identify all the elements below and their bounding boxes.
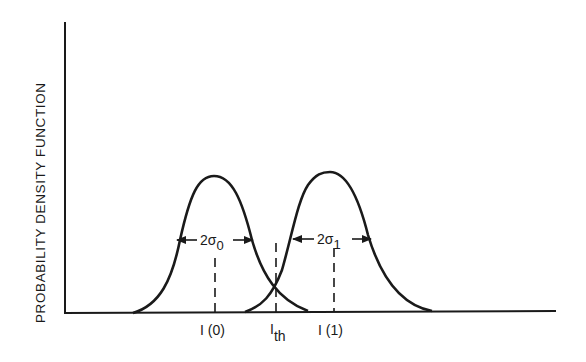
- width-arrow-1: 2σ1: [292, 231, 372, 252]
- pdf-diagram: PROBABILITY DENSITY FUNCTION 2σ0 2σ1 I (…: [0, 0, 586, 362]
- sigma-1-label: 2σ1: [317, 231, 341, 252]
- mean-label-1: I (1): [318, 322, 343, 338]
- threshold-label: Ith: [270, 321, 286, 344]
- arrow-left-icon: [292, 235, 302, 243]
- sigma-0-label: 2σ0: [200, 232, 224, 253]
- y-axis-label: PROBABILITY DENSITY FUNCTION: [33, 82, 48, 323]
- mean-label-0: I (0): [200, 322, 225, 338]
- width-arrow-0: 2σ0: [176, 232, 254, 253]
